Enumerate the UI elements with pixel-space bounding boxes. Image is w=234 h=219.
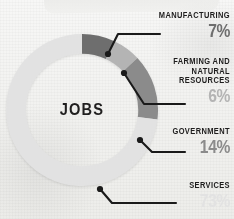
callout-services-percent: 73% xyxy=(156,192,230,210)
callout-services: SERVICES 73% xyxy=(140,181,230,210)
callout-farming: FARMING AND NATURAL RESOURCES 6% xyxy=(142,57,230,105)
callout-farming-percent: 6% xyxy=(158,87,230,105)
callout-government: GOVERNMENT 14% xyxy=(140,127,230,156)
donut-slice-group xyxy=(6,34,158,186)
callout-government-percent: 14% xyxy=(156,138,230,156)
donut-chart xyxy=(2,30,162,190)
callout-manufacturing-percent: 7% xyxy=(138,22,230,40)
callout-manufacturing: MANUFACTURING 7% xyxy=(118,11,230,40)
donut-chart-svg xyxy=(2,30,162,190)
